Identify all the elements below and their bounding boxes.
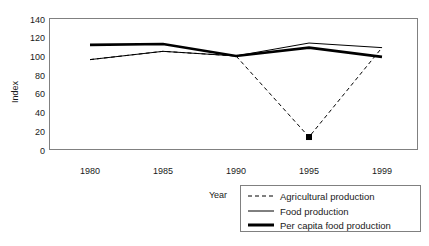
line-chart: 140 120 100 80 60 40 20 0 Index 1980 198… [0,0,429,246]
x-tick-label: 1990 [226,166,246,176]
y-axis-ticks: 140 120 100 80 60 40 20 0 [30,15,45,156]
plot-frame [50,19,418,150]
y-tick-label: 40 [35,108,45,118]
y-tick-label: 140 [30,15,45,25]
x-tick-label: 1995 [299,166,319,176]
legend: Agricultural production Food production … [241,186,421,232]
y-tick-label: 120 [30,33,45,43]
x-axis-ticks: 1980 1985 1990 1995 1999 [80,166,392,176]
y-axis-title: Index [10,80,20,103]
x-tick-label: 1980 [80,166,100,176]
legend-label-food-production: Food production [280,206,349,217]
data-point-marker [306,134,312,140]
chart-container: 140 120 100 80 60 40 20 0 Index 1980 198… [0,0,429,246]
y-tick-label: 60 [35,89,45,99]
y-tick-label: 20 [35,127,45,137]
x-tick-label: 1985 [153,166,173,176]
x-axis-title: Year [209,190,227,200]
y-tick-label: 0 [40,146,45,156]
legend-label-per-capita-food-production: Per capita food production [280,220,391,231]
legend-label-agricultural-production: Agricultural production [280,191,375,202]
x-tick-label: 1999 [372,166,392,176]
y-tick-label: 100 [30,52,45,62]
y-tick-label: 80 [35,71,45,81]
series-layer [90,43,382,140]
series-line-agricultural-production [90,48,382,137]
